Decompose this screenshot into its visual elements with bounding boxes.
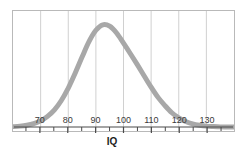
x-tick-label: 70: [35, 115, 45, 125]
x-tick-label: 110: [144, 115, 158, 125]
x-axis-title: IQ: [0, 136, 248, 147]
iq-bell-curve-chart: 708090100110120130 IQ: [0, 0, 248, 154]
plot-frame: [12, 10, 235, 132]
x-tick-label: 80: [63, 115, 73, 125]
x-tick-label: 120: [172, 115, 187, 125]
x-tick-label: 90: [91, 115, 101, 125]
x-tick-label: 130: [200, 115, 215, 125]
x-tick-label: 100: [116, 115, 131, 125]
x-axis-title-text: IQ: [107, 136, 118, 147]
bell-curve-path: [13, 11, 234, 131]
normal-distribution-curve: [13, 25, 234, 128]
